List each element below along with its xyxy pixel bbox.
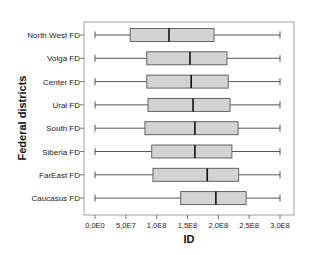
x-axis: 0,0E05,0E71,0E81,5E82,0E82,5E83,0E8 [85,215,290,230]
x-tick-label: 1,5E8 [178,221,198,230]
y-tick-label: Volga FD [47,54,80,63]
y-tick-label: South FD [46,124,80,133]
iqr-box [147,52,227,65]
x-tick-label: 5,0E7 [116,221,136,230]
y-tick-label: Siberia FD [42,148,80,157]
iqr-box [152,145,232,158]
x-axis-title: ID [184,233,195,245]
y-tick-label: Ural FD [52,101,80,110]
iqr-box [130,29,214,42]
iqr-box [145,122,238,135]
y-tick-label: Center FD [43,78,80,87]
x-tick-label: 1,0E8 [147,221,167,230]
y-tick-label: Caucasus FD [32,194,81,203]
iqr-box [153,168,239,181]
y-tick-label: FarEast FD [39,171,80,180]
x-tick-label: 3,0E8 [270,221,290,230]
y-tick-label: North West FD [27,31,80,40]
x-tick-label: 2,5E8 [239,221,259,230]
iqr-box [181,192,246,205]
x-tick-label: 2,0E8 [209,221,229,230]
iqr-box [148,98,230,111]
x-tick-label: 0,0E0 [85,221,105,230]
y-axis-title: Federal districts [16,76,28,161]
plot-frame [84,22,294,215]
iqr-box [147,75,228,88]
boxplot-chart: North West FDVolga FDCenter FDUral FDSou… [0,0,310,255]
y-axis: North West FDVolga FDCenter FDUral FDSou… [27,31,84,203]
